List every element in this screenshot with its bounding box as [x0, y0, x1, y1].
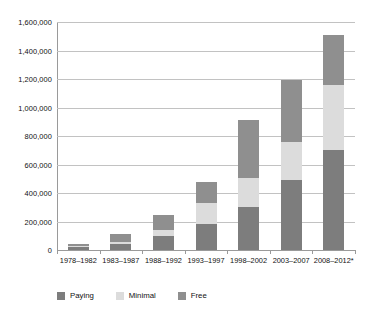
x-axis-tickmark — [270, 250, 271, 254]
bar-segment-paying[interactable] — [238, 207, 259, 250]
bar-segment-minimal[interactable] — [196, 203, 217, 224]
bar-segment-minimal[interactable] — [238, 178, 259, 207]
y-axis-tick-label: 400,000 — [0, 189, 52, 198]
legend-label: Minimal — [129, 291, 156, 300]
x-axis-tickmark — [312, 250, 313, 254]
bar-stack[interactable] — [323, 35, 344, 250]
bar-stack[interactable] — [68, 244, 89, 250]
x-axis-tick-label: 1988–1992 — [145, 256, 182, 265]
x-axis-tickmark — [185, 250, 186, 254]
y-axis-tick-label: 1,200,000 — [0, 75, 52, 84]
bar-segment-free[interactable] — [323, 35, 344, 86]
y-axis-tick-label: 1,000,000 — [0, 103, 52, 112]
bar-segment-minimal[interactable] — [323, 85, 344, 149]
y-axis-tick-label: 1,400,000 — [0, 46, 52, 55]
x-axis-tickmark — [142, 250, 143, 254]
x-axis-tickmark — [57, 250, 58, 254]
y-axis-tick-label: 0 — [0, 246, 52, 255]
x-axis-tickmark — [355, 250, 356, 254]
legend-item[interactable]: Paying — [57, 291, 94, 300]
legend-swatch-icon — [116, 292, 124, 300]
x-axis-tickmark — [100, 250, 101, 254]
bar-segment-paying[interactable] — [153, 236, 174, 250]
gridline — [57, 250, 355, 251]
bar-segment-paying[interactable] — [110, 244, 131, 250]
legend-label: Paying — [70, 291, 94, 300]
bar-stack[interactable] — [110, 234, 131, 250]
x-axis-tick-label: 1998–2002 — [230, 256, 267, 265]
chart-legend: PayingMinimalFree — [57, 291, 207, 300]
legend-item[interactable]: Minimal — [116, 291, 156, 300]
bar-segment-free[interactable] — [153, 215, 174, 230]
legend-swatch-icon — [178, 292, 186, 300]
x-axis-tick-label: 1993–1997 — [188, 256, 225, 265]
bar-segment-free[interactable] — [196, 182, 217, 203]
bar-segment-free[interactable] — [110, 234, 131, 243]
x-axis-tick-label: 1978–1982 — [60, 256, 97, 265]
y-axis-tick-label: 200,000 — [0, 217, 52, 226]
legend-label: Free — [191, 291, 207, 300]
x-axis-tick-label: 1983–1987 — [102, 256, 139, 265]
bar-segment-paying[interactable] — [68, 247, 89, 250]
x-axis-tick-labels: 1978–19821983–19871988–19921993–19971998… — [57, 256, 355, 270]
bar-stack[interactable] — [153, 215, 174, 250]
legend-item[interactable]: Free — [178, 291, 207, 300]
stacked-bar-chart: 0200,000400,000600,000800,0001,000,0001,… — [0, 0, 372, 317]
plot-area — [57, 22, 355, 250]
bar-segment-paying[interactable] — [323, 150, 344, 250]
legend-swatch-icon — [57, 292, 65, 300]
y-axis-tick-label: 1,600,000 — [0, 18, 52, 27]
x-axis-tick-label: 2003–2007 — [273, 256, 310, 265]
x-axis-tickmark — [227, 250, 228, 254]
bar-segment-paying[interactable] — [196, 224, 217, 250]
bar-segment-free[interactable] — [238, 120, 259, 178]
bar-stack[interactable] — [281, 80, 302, 250]
bar-stack[interactable] — [238, 120, 259, 250]
bars-layer — [57, 22, 355, 250]
bar-segment-free[interactable] — [281, 80, 302, 142]
y-axis-tick-label: 600,000 — [0, 160, 52, 169]
bar-segment-paying[interactable] — [281, 180, 302, 250]
bar-stack[interactable] — [196, 182, 217, 250]
x-axis-tick-label: 2008–2012* — [314, 256, 354, 265]
y-axis-tick-label: 800,000 — [0, 132, 52, 141]
bar-segment-minimal[interactable] — [281, 142, 302, 180]
